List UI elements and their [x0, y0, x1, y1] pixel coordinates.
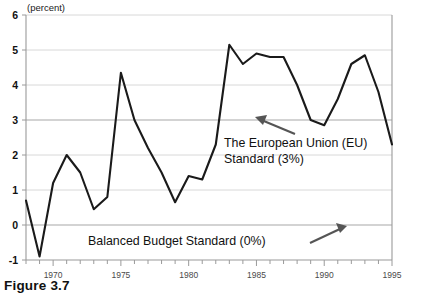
y-axis-tick-label: 5: [12, 44, 18, 56]
y-axis-tick-label: 0: [12, 219, 18, 231]
x-axis-tick-label: 1990: [315, 270, 334, 280]
x-axis-tick-label: 1975: [111, 270, 130, 280]
y-axis-tick-label: 6: [12, 9, 18, 21]
y-axis-tick-label: 4: [12, 79, 18, 91]
y-axis-tick-label: 2: [12, 149, 18, 161]
y-axis-tick-label: 1: [12, 184, 18, 196]
x-axis-tick-label: 1980: [179, 270, 198, 280]
annotation-arrow-balanced-budget: [310, 223, 347, 243]
x-axis-tick-label: 1995: [383, 270, 402, 280]
figure-caption: Figure 3.7: [4, 278, 70, 293]
annotation-arrow-eu: [255, 115, 295, 134]
annotation-balanced-budget: Balanced Budget Standard (0%): [88, 234, 266, 250]
y-axis-tick-label: -1: [9, 254, 18, 266]
arrow-shaft: [310, 228, 342, 243]
x-axis-tick-label: 1985: [247, 270, 266, 280]
y-axis-tick-label: 3: [12, 114, 18, 126]
annotation-eu-standard-line2: Standard (3%): [224, 152, 367, 168]
annotation-eu-standard-line1: The European Union (EU): [224, 136, 367, 152]
line-chart: -10123456197019751980198519901995: [0, 0, 433, 301]
figure-container: (percent) -10123456197019751980198519901…: [0, 0, 433, 301]
annotation-eu-standard: The European Union (EU) Standard (3%): [224, 136, 367, 167]
